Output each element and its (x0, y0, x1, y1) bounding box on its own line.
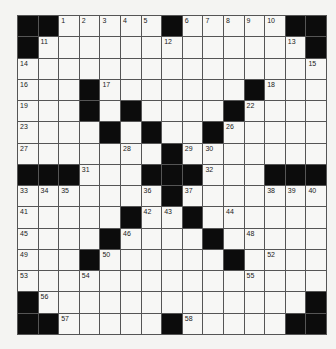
grid-cell[interactable] (306, 144, 326, 164)
grid-cell[interactable] (306, 229, 326, 249)
grid-cell[interactable] (265, 207, 285, 227)
grid-cell[interactable] (183, 250, 203, 270)
grid-cell[interactable] (265, 37, 285, 57)
grid-cell[interactable] (224, 229, 244, 249)
grid-cell[interactable] (80, 144, 100, 164)
grid-cell[interactable]: 32 (203, 165, 223, 185)
grid-cell[interactable] (121, 80, 141, 100)
grid-cell[interactable] (245, 165, 265, 185)
grid-cell[interactable]: 14 (18, 59, 38, 79)
grid-cell[interactable] (245, 186, 265, 206)
grid-cell[interactable] (121, 37, 141, 57)
grid-cell[interactable] (39, 207, 59, 227)
grid-cell[interactable] (286, 271, 306, 291)
grid-cell[interactable] (121, 292, 141, 312)
grid-cell[interactable] (183, 292, 203, 312)
grid-cell[interactable]: 16 (18, 80, 38, 100)
grid-cell[interactable] (121, 186, 141, 206)
grid-cell[interactable]: 35 (59, 186, 79, 206)
grid-cell[interactable] (142, 314, 162, 334)
grid-cell[interactable] (39, 250, 59, 270)
grid-cell[interactable] (59, 207, 79, 227)
grid-cell[interactable] (203, 314, 223, 334)
grid-cell[interactable] (142, 80, 162, 100)
grid-cell[interactable] (142, 292, 162, 312)
grid-cell[interactable]: 46 (121, 229, 141, 249)
grid-cell[interactable] (224, 314, 244, 334)
grid-cell[interactable] (100, 165, 120, 185)
grid-cell[interactable]: 41 (18, 207, 38, 227)
grid-cell[interactable] (183, 122, 203, 142)
grid-cell[interactable] (245, 314, 265, 334)
grid-cell[interactable]: 7 (203, 16, 223, 36)
grid-cell[interactable] (59, 250, 79, 270)
grid-cell[interactable] (80, 292, 100, 312)
grid-cell[interactable] (183, 229, 203, 249)
grid-cell[interactable] (265, 229, 285, 249)
grid-cell[interactable]: 44 (224, 207, 244, 227)
grid-cell[interactable] (265, 292, 285, 312)
grid-cell[interactable] (80, 229, 100, 249)
grid-cell[interactable]: 53 (18, 271, 38, 291)
grid-cell[interactable] (306, 207, 326, 227)
grid-cell[interactable] (224, 80, 244, 100)
grid-cell[interactable] (100, 271, 120, 291)
grid-cell[interactable]: 50 (100, 250, 120, 270)
grid-cell[interactable] (245, 37, 265, 57)
grid-cell[interactable] (183, 37, 203, 57)
grid-cell[interactable] (39, 229, 59, 249)
grid-cell[interactable] (121, 314, 141, 334)
grid-cell[interactable]: 5 (142, 16, 162, 36)
grid-cell[interactable] (59, 59, 79, 79)
grid-cell[interactable] (203, 101, 223, 121)
grid-cell[interactable] (245, 59, 265, 79)
grid-cell[interactable] (162, 250, 182, 270)
grid-cell[interactable]: 11 (39, 37, 59, 57)
grid-cell[interactable]: 56 (39, 292, 59, 312)
grid-cell[interactable]: 13 (286, 37, 306, 57)
grid-cell[interactable]: 29 (183, 144, 203, 164)
grid-cell[interactable] (286, 250, 306, 270)
grid-cell[interactable] (265, 271, 285, 291)
grid-cell[interactable]: 27 (18, 144, 38, 164)
grid-cell[interactable] (39, 80, 59, 100)
grid-cell[interactable]: 22 (245, 101, 265, 121)
grid-cell[interactable] (224, 271, 244, 291)
grid-cell[interactable] (306, 250, 326, 270)
grid-cell[interactable]: 42 (142, 207, 162, 227)
grid-cell[interactable] (162, 271, 182, 291)
grid-cell[interactable] (59, 80, 79, 100)
grid-cell[interactable]: 57 (59, 314, 79, 334)
grid-cell[interactable] (183, 80, 203, 100)
grid-cell[interactable]: 8 (224, 16, 244, 36)
grid-cell[interactable] (100, 144, 120, 164)
grid-cell[interactable] (142, 144, 162, 164)
grid-cell[interactable] (183, 59, 203, 79)
grid-cell[interactable] (162, 122, 182, 142)
grid-cell[interactable] (265, 101, 285, 121)
grid-cell[interactable] (286, 59, 306, 79)
grid-cell[interactable] (80, 314, 100, 334)
grid-cell[interactable] (121, 122, 141, 142)
grid-cell[interactable]: 17 (100, 80, 120, 100)
grid-cell[interactable]: 1 (59, 16, 79, 36)
grid-cell[interactable] (59, 101, 79, 121)
grid-cell[interactable] (39, 271, 59, 291)
grid-cell[interactable]: 12 (162, 37, 182, 57)
grid-cell[interactable] (306, 101, 326, 121)
grid-cell[interactable] (162, 59, 182, 79)
grid-cell[interactable]: 34 (39, 186, 59, 206)
grid-cell[interactable]: 40 (306, 186, 326, 206)
grid-cell[interactable] (286, 292, 306, 312)
grid-cell[interactable] (265, 122, 285, 142)
grid-cell[interactable] (100, 186, 120, 206)
grid-cell[interactable] (265, 314, 285, 334)
grid-cell[interactable]: 38 (265, 186, 285, 206)
grid-cell[interactable] (203, 271, 223, 291)
grid-cell[interactable] (142, 229, 162, 249)
grid-cell[interactable] (142, 37, 162, 57)
grid-cell[interactable] (203, 37, 223, 57)
grid-cell[interactable] (162, 80, 182, 100)
grid-cell[interactable]: 48 (245, 229, 265, 249)
grid-cell[interactable]: 26 (224, 122, 244, 142)
